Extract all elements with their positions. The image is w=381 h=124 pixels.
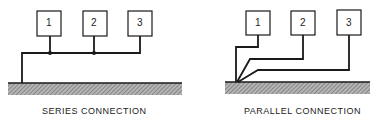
junction-dot [48,51,52,55]
box-number: 2 [91,17,97,28]
box-number: 3 [346,17,352,28]
ground-plane [225,82,370,94]
parallel-caption: PARALLEL CONNECTION [244,106,361,116]
box-number: 2 [300,17,306,28]
series-wire [22,36,140,83]
box-number: 1 [46,17,52,28]
ground-plane [8,83,182,95]
series-caption: SERIES CONNECTION [42,106,147,116]
junction-dot [92,51,96,55]
box-number: 1 [255,17,261,28]
box-number: 3 [137,17,143,28]
parallel-wire-2 [237,35,303,82]
